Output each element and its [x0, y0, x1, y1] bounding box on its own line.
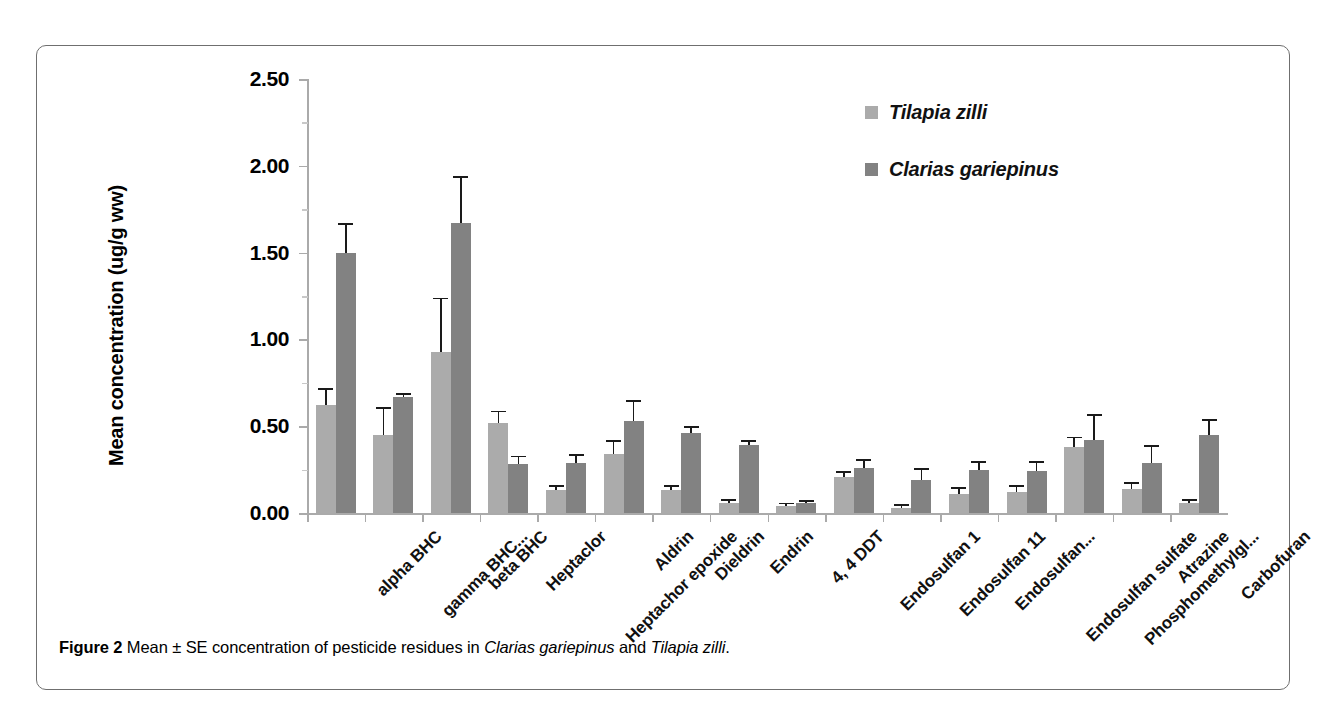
x-axis-tick-label: Endosulfan sulfate: [1082, 527, 1201, 646]
x-axis-tick-label: alpha BHC: [372, 527, 446, 601]
legend-item-tilapia-zilli: Tilapia zilli: [865, 101, 1195, 124]
x-axis-tick-label: 4, 4 DDT: [828, 527, 889, 588]
legend-label: Clarias gariepinus: [889, 158, 1059, 181]
legend-label: Tilapia zilli: [889, 101, 987, 124]
chart-legend: Tilapia zilli Clarias gariepinus: [865, 101, 1195, 215]
legend-swatch-icon: [865, 163, 878, 176]
caption-text-2: and: [614, 638, 650, 656]
caption-species-tilapia: Tilapia zilli: [651, 638, 726, 656]
figure-caption: Figure 2 Mean ± SE concentration of pest…: [59, 638, 1269, 657]
figure-number: Figure 2: [59, 638, 122, 656]
chart-plot-area: Mean concentration (ug/g ww) 0.000.501.0…: [37, 46, 1291, 691]
caption-species-clarias: Clarias gariepinus: [484, 638, 614, 656]
caption-text-1: Mean ± SE concentration of pesticide res…: [122, 638, 484, 656]
legend-item-clarias-gariepinus: Clarias gariepinus: [865, 158, 1195, 181]
x-axis-tick-label: Endrin: [766, 527, 817, 578]
legend-swatch-icon: [865, 106, 878, 119]
caption-text-3: .: [725, 638, 729, 656]
x-axis-tick-label: Heptaclor: [543, 527, 611, 595]
figure-frame: Mean concentration (ug/g ww) 0.000.501.0…: [36, 45, 1290, 690]
